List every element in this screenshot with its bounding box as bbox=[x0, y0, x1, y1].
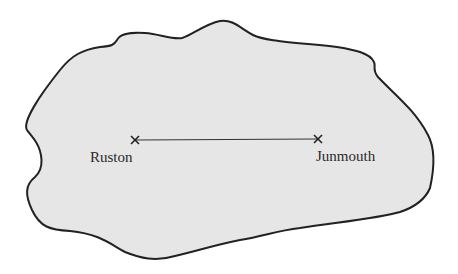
place-label-junmouth: Junmouth bbox=[316, 148, 376, 164]
map-canvas: Ruston Junmouth bbox=[0, 0, 458, 274]
place-label-ruston: Ruston bbox=[90, 149, 133, 165]
